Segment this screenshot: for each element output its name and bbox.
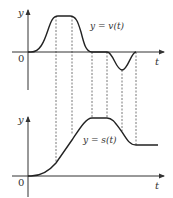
bottom-t-label: t [155,180,160,191]
top-y-label: y [17,7,24,18]
bottom-graph: y t 0 y = s(t) [12,114,164,197]
bottom-origin-label: 0 [18,177,24,188]
top-t-label: t [155,56,160,67]
velocity-curve-label: y = v(t) [89,21,125,31]
velocity-position-diagram: y t 0 y = v(t) y t 0 y = s(t) [0,0,173,198]
position-curve [28,118,158,176]
bottom-y-label: y [17,114,24,125]
position-curve-label: y = s(t) [82,135,117,145]
top-origin-label: 0 [18,53,24,64]
top-graph: y t 0 y = v(t) [12,7,164,90]
